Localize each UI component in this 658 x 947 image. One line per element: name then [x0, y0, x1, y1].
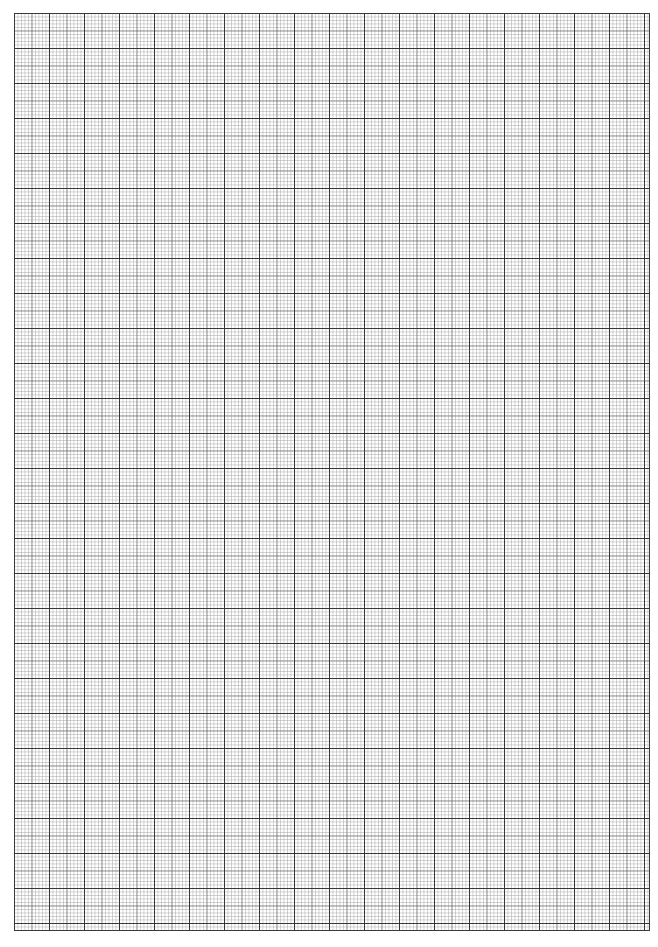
millimeter-grid: [14, 13, 650, 931]
footer-text-faint: [530, 935, 650, 945]
graph-paper-page: [0, 0, 658, 947]
